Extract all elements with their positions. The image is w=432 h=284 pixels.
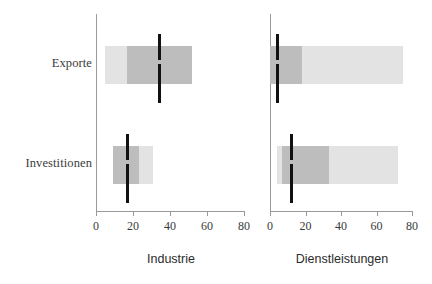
panel-title-industrie: Industrie (147, 252, 195, 266)
x-tick-label-dienstleistungen-80: 80 (406, 219, 418, 234)
marker-dot-dienstleistungen-exporte (276, 96, 279, 103)
marker-upper-dienstleistungen-investitionen (290, 134, 293, 160)
marker-lower-industrie-exporte (158, 64, 161, 96)
marker-upper-industrie-investitionen (126, 134, 129, 160)
marker-lower-dienstleistungen-exporte (276, 64, 279, 96)
x-tick-industrie-80 (244, 211, 245, 216)
category-label-exporte: Exporte (0, 56, 92, 71)
x-tick-label-industrie-20: 20 (127, 219, 139, 234)
marker-dot-industrie-investitionen (126, 196, 129, 203)
x-tick-dienstleistungen-60 (377, 211, 378, 216)
x-tick-label-dienstleistungen-20: 20 (300, 219, 312, 234)
y-axis-industrie (96, 14, 97, 212)
category-label-investitionen: Investitionen (0, 156, 92, 171)
x-tick-label-dienstleistungen-40: 40 (335, 219, 347, 234)
x-tick-label-industrie-80: 80 (238, 219, 250, 234)
x-tick-industrie-20 (133, 211, 134, 216)
x-tick-label-industrie-60: 60 (201, 219, 213, 234)
x-tick-dienstleistungen-0 (270, 211, 271, 216)
panel-title-dienstleistungen: Dienstleistungen (296, 252, 388, 266)
marker-lower-industrie-investitionen (126, 164, 129, 196)
marker-upper-industrie-exporte (158, 34, 161, 60)
bar-inner-dienstleistungen-exporte (270, 46, 302, 84)
panel-industrie: 020406080 (96, 14, 246, 214)
marker-lower-dienstleistungen-investitionen (290, 164, 293, 196)
x-tick-label-industrie-0: 0 (93, 219, 99, 234)
x-tick-label-dienstleistungen-60: 60 (371, 219, 383, 234)
y-axis-dienstleistungen (270, 14, 271, 212)
x-tick-dienstleistungen-40 (341, 211, 342, 216)
marker-dot-industrie-exporte (158, 96, 161, 103)
x-tick-industrie-60 (207, 211, 208, 216)
x-tick-industrie-0 (96, 211, 97, 216)
x-tick-label-industrie-40: 40 (164, 219, 176, 234)
x-tick-dienstleistungen-80 (412, 211, 413, 216)
x-tick-industrie-40 (170, 211, 171, 216)
panel-dienstleistungen: 020406080 (270, 14, 414, 214)
marker-dot-dienstleistungen-investitionen (290, 196, 293, 203)
marker-upper-dienstleistungen-exporte (276, 34, 279, 60)
x-tick-label-dienstleistungen-0: 0 (267, 219, 273, 234)
chart-figure: Exporte Investitionen 020406080 02040608… (0, 0, 432, 284)
x-tick-dienstleistungen-20 (306, 211, 307, 216)
